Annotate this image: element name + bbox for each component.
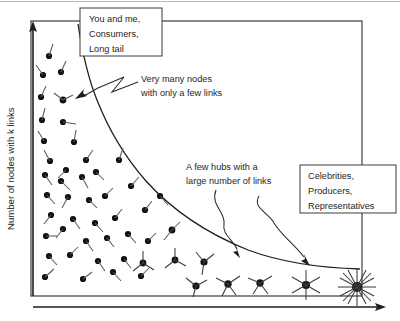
node (110, 269, 121, 281)
leader-many-nodes (75, 77, 138, 99)
hub-node (216, 276, 240, 296)
callout-consumers-line-2: Consumers, (89, 29, 139, 39)
plot-frame (31, 21, 362, 296)
node (43, 233, 57, 239)
node (128, 177, 139, 189)
node (44, 212, 54, 224)
power-law-curve (78, 24, 360, 269)
node (44, 192, 55, 204)
diagram-canvas: Number of nodes with k links You and me,… (0, 0, 400, 321)
node (92, 220, 103, 232)
node (164, 222, 180, 240)
node (116, 148, 123, 163)
node (70, 216, 80, 229)
node (125, 231, 136, 243)
callout-celebrities-line-2: Producers, (308, 186, 352, 196)
node (44, 150, 53, 164)
node (71, 130, 77, 145)
node (36, 65, 46, 78)
node (46, 253, 57, 265)
node (42, 269, 54, 280)
node (58, 61, 66, 75)
node (67, 247, 78, 258)
hub-node-megastar (338, 268, 376, 306)
node (83, 150, 93, 163)
node (157, 193, 168, 205)
node (42, 172, 52, 185)
node (83, 238, 93, 251)
node (102, 188, 113, 199)
callout-many-nodes-line-1: Very many nodes (141, 74, 212, 84)
hub-node (248, 276, 272, 294)
node (54, 93, 73, 103)
node (112, 209, 122, 221)
x-axis-arrow (33, 303, 386, 311)
hub-node (186, 278, 207, 297)
node (38, 86, 46, 100)
callout-few-hubs-line-2: large number of links (186, 176, 272, 186)
node (95, 258, 105, 271)
node (58, 178, 70, 190)
callout-consumers-line-1: You and me, (89, 14, 140, 24)
y-axis-label: Number of nodes with k links (5, 107, 16, 230)
callout-many-nodes-line-2: with only a few links (140, 88, 223, 98)
node (46, 44, 53, 59)
node (138, 268, 149, 279)
node (93, 169, 104, 180)
node (80, 272, 92, 282)
node (56, 226, 66, 238)
callout-celebrities-line-1: Celebrities, (308, 171, 354, 181)
hub-node (165, 248, 186, 268)
power-law-diagram: Number of nodes with k links You and me,… (0, 0, 400, 321)
callout-consumers-line-3: Long tail (89, 44, 124, 54)
node (58, 167, 69, 178)
node (142, 201, 152, 213)
node (38, 131, 47, 144)
callout-few-hubs-line-1: A few hubs with a (186, 162, 258, 172)
node (86, 197, 97, 208)
node (145, 233, 156, 244)
callout-celebrities-line-3: Representatives (308, 201, 375, 211)
node (60, 119, 76, 125)
hub-node (133, 251, 154, 271)
node (79, 174, 88, 188)
y-axis-arrow (29, 21, 37, 296)
node (39, 108, 45, 123)
hub-node (196, 252, 214, 275)
hub-sequence (133, 248, 376, 306)
node (121, 256, 131, 268)
node (104, 235, 114, 247)
leader-few-hubs-left (215, 190, 240, 258)
node (62, 194, 71, 208)
